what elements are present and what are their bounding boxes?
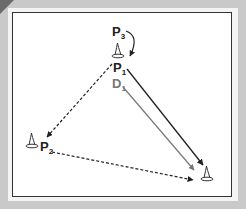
cone-icon-top	[112, 43, 124, 58]
drill-diagram: P3 P1 D1 P2	[0, 0, 246, 209]
cone-icon-bottom-right	[201, 166, 213, 181]
label-p2: P2	[40, 139, 54, 156]
label-p1: P1	[113, 60, 127, 77]
label-d1: D1	[112, 76, 126, 93]
label-p3: P3	[112, 24, 126, 41]
p3-rotation-arrow	[126, 31, 134, 56]
d1-run-arrow	[123, 87, 194, 170]
p1-run-arrow	[127, 69, 203, 165]
cone-icon-left	[26, 133, 38, 148]
pass-p2-to-cone-arrow	[52, 152, 193, 180]
pass-p1-to-p2-arrow	[47, 64, 112, 137]
